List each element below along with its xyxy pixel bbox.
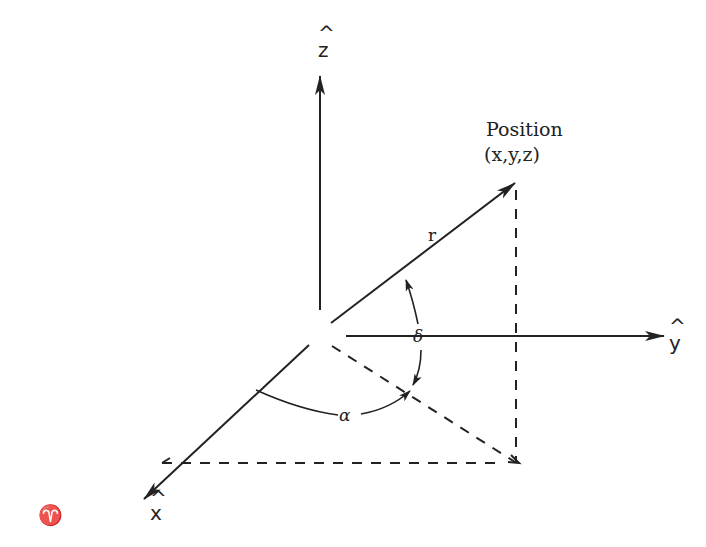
- z-axis-label: z: [318, 38, 329, 62]
- coordinate-diagram: ^ z ^ y ^ x ♈ r Position (x,y,z) α δ: [0, 0, 706, 547]
- alpha-arc: [256, 390, 410, 415]
- equatorial-projection: [332, 346, 515, 462]
- delta-label: δ: [413, 326, 423, 346]
- radius-vector: [331, 183, 515, 323]
- position-title: Position: [486, 118, 563, 140]
- alpha-label: α: [339, 405, 351, 425]
- x-axis-label: x: [150, 501, 162, 525]
- radius-label: r: [428, 225, 437, 245]
- y-axis-label: y: [669, 331, 681, 355]
- position-coords: (x,y,z): [484, 143, 540, 165]
- vernal-equinox-symbol: ♈: [38, 503, 63, 527]
- x-axis: [144, 345, 309, 499]
